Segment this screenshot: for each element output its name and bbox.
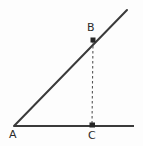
geometry-canvas	[0, 0, 143, 146]
point-marker-c	[90, 123, 96, 128]
point-label-a: A	[9, 129, 17, 140]
point-label-b: B	[87, 22, 95, 33]
diagonal-ray-ab	[14, 10, 127, 126]
dashed-segment-bc	[92, 41, 93, 125]
point-label-c: C	[88, 130, 96, 141]
point-marker-b	[91, 38, 96, 43]
geometry-figure: A B C	[0, 0, 143, 146]
